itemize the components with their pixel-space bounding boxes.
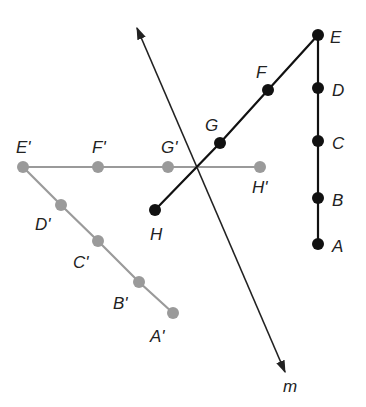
- label-b: B: [332, 191, 343, 210]
- label-d-prime: D': [35, 215, 51, 234]
- point-f-prime: [92, 161, 104, 173]
- label-h-prime: H': [252, 178, 268, 197]
- label-c: C: [332, 134, 345, 153]
- image-figure: [23, 167, 260, 313]
- label-b-prime: B': [113, 294, 128, 313]
- point-a: [312, 238, 324, 250]
- segment-e-h: [155, 35, 318, 210]
- original-figure: [155, 35, 318, 244]
- reflection-diagram: E D C B A F G H E' F' G' H' D' C' B' A' …: [0, 0, 366, 407]
- label-e-prime: E': [16, 138, 31, 157]
- point-a-prime: [167, 307, 179, 319]
- point-b-prime: [133, 276, 145, 288]
- label-f: F: [256, 63, 268, 82]
- point-h-prime: [254, 161, 266, 173]
- label-a: A: [331, 237, 343, 256]
- label-f-prime: F': [92, 138, 106, 157]
- label-g: G: [205, 116, 218, 135]
- point-g-prime: [162, 161, 174, 173]
- label-g-prime: G': [161, 138, 178, 157]
- point-h: [149, 204, 161, 216]
- label-e: E: [330, 28, 342, 47]
- point-d-prime: [55, 199, 67, 211]
- point-b: [312, 192, 324, 204]
- point-c-prime: [92, 235, 104, 247]
- label-c-prime: C': [73, 253, 89, 272]
- point-e: [312, 29, 324, 41]
- point-d: [312, 82, 324, 94]
- point-g: [214, 137, 226, 149]
- label-d: D: [332, 81, 344, 100]
- label-a-prime: A': [149, 327, 165, 346]
- point-c: [312, 135, 324, 147]
- point-e-prime: [17, 161, 29, 173]
- label-m: m: [283, 377, 297, 396]
- label-h: H: [150, 225, 163, 244]
- point-f: [262, 84, 274, 96]
